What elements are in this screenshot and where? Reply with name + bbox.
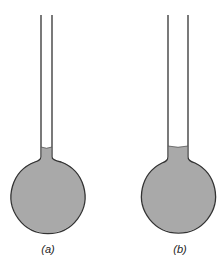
flask-b-liquid xyxy=(142,146,216,233)
flask-a-liquid xyxy=(11,147,85,233)
flask-a-label: (a) xyxy=(41,243,54,255)
flask-diagram xyxy=(0,0,223,269)
flask-a xyxy=(11,15,85,234)
flask-b xyxy=(142,15,216,233)
flask-b-label: (b) xyxy=(173,243,186,255)
